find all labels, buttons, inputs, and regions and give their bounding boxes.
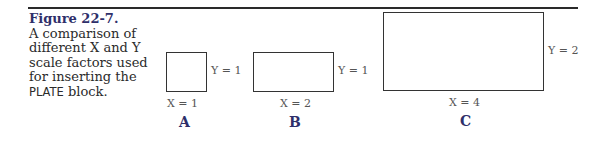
x-label-c: X = 4: [449, 96, 480, 109]
y-label-b: Y = 1: [338, 64, 368, 77]
panel-letter-a: A: [179, 114, 190, 130]
caption-line: different X and Y: [29, 41, 169, 56]
figure-title: Figure 22-7.: [29, 12, 169, 27]
caption-line-last: PLATE block.: [29, 85, 169, 100]
block-name: PLATE: [29, 85, 64, 99]
caption-line: A comparison of: [29, 27, 169, 42]
top-rule: [28, 7, 578, 9]
plate-box-c: [383, 12, 544, 91]
figure-caption: Figure 22-7. A comparison of different X…: [29, 12, 169, 99]
plate-box-a: [166, 52, 207, 92]
caption-tail: block.: [64, 84, 108, 99]
x-label-b: X = 2: [280, 97, 311, 110]
x-label-a: X = 1: [167, 97, 198, 110]
y-label-a: Y = 1: [211, 64, 241, 77]
plate-box-b: [253, 52, 334, 92]
y-label-c: Y = 2: [548, 44, 578, 57]
panel-letter-c: C: [460, 113, 471, 129]
panel-letter-b: B: [289, 114, 301, 130]
caption-line: scale factors used: [29, 56, 169, 71]
caption-line: for inserting the: [29, 70, 169, 85]
